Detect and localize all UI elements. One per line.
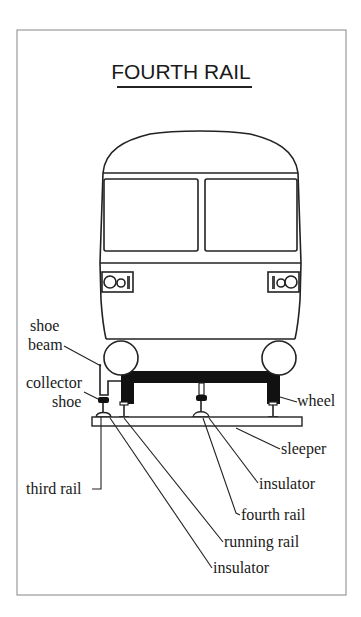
left-running-rail-head: [120, 402, 128, 405]
bogie-beam: [133, 371, 272, 383]
fourth-rail-insulator: [193, 412, 209, 417]
label-running-rail: running rail: [224, 533, 300, 551]
label-shoe-beam-2: beam: [28, 336, 63, 353]
label-wheel: wheel: [297, 392, 336, 409]
left-wheel-support: [121, 371, 134, 404]
diagram-title: FOURTH RAIL: [111, 60, 251, 83]
left-wheel-icon: [104, 341, 138, 375]
label-sleeper: sleeper: [281, 440, 327, 458]
sleeper: [92, 417, 302, 426]
fourth-rail-diagram: FOURTH RAIL: [0, 0, 361, 617]
label-third-rail: third rail: [26, 480, 82, 497]
label-shoe-beam-1: shoe: [30, 317, 59, 334]
label-insulator-lower: insulator: [213, 559, 270, 576]
right-wheel-support: [267, 371, 280, 404]
label-collector-shoe-1: collector: [26, 374, 83, 391]
left-tail-lamp-icon: [127, 276, 130, 289]
fourth-rail-shoe-arm: [199, 383, 204, 395]
fourth-rail-collector-shoe: [196, 395, 207, 401]
left-collector-shoe: [98, 397, 109, 403]
label-fourth-rail: fourth rail: [241, 506, 306, 523]
right-wheel-icon: [262, 341, 296, 375]
label-collector-shoe-2: shoe: [52, 393, 81, 410]
label-insulator-upper: insulator: [259, 475, 316, 492]
right-running-rail-head: [269, 402, 277, 405]
right-tail-lamp-icon: [272, 276, 275, 289]
